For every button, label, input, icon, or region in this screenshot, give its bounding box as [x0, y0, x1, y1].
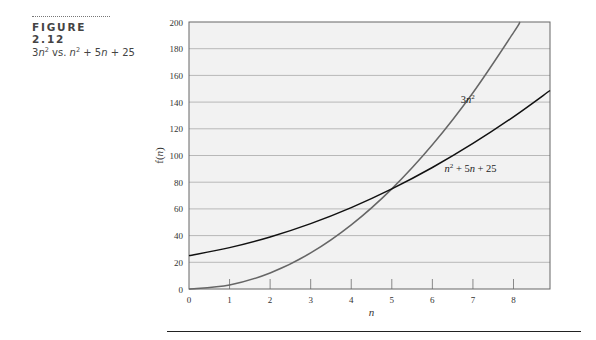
line-chart: 0204060801001201401601802000123456783n2n…	[0, 0, 596, 340]
y-tick-label: 160	[170, 71, 184, 81]
x-tick-label: 7	[471, 295, 476, 305]
y-tick-label: 100	[170, 151, 184, 161]
y-tick-label: 140	[170, 98, 184, 108]
annotation-n2-5n-25: n2 + 5n + 25	[445, 162, 497, 174]
x-tick-label: 0	[187, 295, 192, 305]
y-tick-label: 80	[174, 178, 184, 188]
x-tick-label: 5	[390, 295, 395, 305]
y-tick-label: 180	[170, 44, 184, 54]
x-tick-label: 6	[430, 295, 435, 305]
y-tick-label: 0	[179, 285, 184, 295]
x-tick-label: 8	[511, 295, 516, 305]
x-tick-label: 4	[349, 295, 354, 305]
y-tick-label: 60	[174, 204, 184, 214]
y-tick-label: 20	[174, 258, 184, 268]
x-tick-label: 3	[308, 295, 313, 305]
x-tick-label: 1	[227, 295, 232, 305]
y-axis-label: f(n)	[153, 147, 166, 164]
bottom-divider	[167, 331, 581, 332]
x-axis-label: n	[369, 306, 375, 318]
y-tick-label: 200	[170, 18, 184, 28]
y-tick-label: 120	[170, 124, 184, 134]
x-tick-label: 2	[268, 295, 273, 305]
y-tick-label: 40	[174, 231, 184, 241]
